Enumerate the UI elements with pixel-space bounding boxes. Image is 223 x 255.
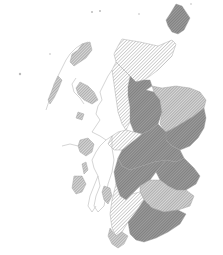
region-mull <box>78 138 94 156</box>
region-jura <box>82 162 88 174</box>
islet <box>138 13 140 15</box>
mull-coastline <box>62 144 78 146</box>
islet <box>91 11 93 13</box>
map-canvas <box>0 0 223 255</box>
region-arran <box>102 186 112 204</box>
region-shetland <box>166 4 190 34</box>
region-lewis <box>70 42 92 66</box>
region-skye <box>76 82 98 104</box>
region-islay <box>72 176 86 194</box>
scotland-choropleth-map <box>0 0 223 255</box>
argyll-coastline <box>92 136 114 212</box>
islet <box>19 73 21 75</box>
region-rum <box>76 112 84 120</box>
islet <box>49 53 51 55</box>
islet <box>99 10 101 12</box>
mainland-west-coastline <box>92 70 112 140</box>
region-harris-uist <box>48 76 62 104</box>
islet <box>190 3 192 5</box>
